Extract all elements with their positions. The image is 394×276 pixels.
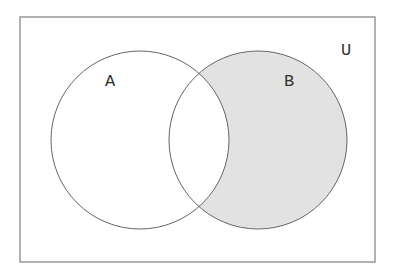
- shaded-region-b-minus-a: [169, 51, 347, 229]
- universe-label: U: [341, 41, 351, 60]
- venn-diagram: A B U: [0, 0, 394, 276]
- set-b-label: B: [284, 72, 294, 91]
- set-a-label: A: [105, 72, 116, 91]
